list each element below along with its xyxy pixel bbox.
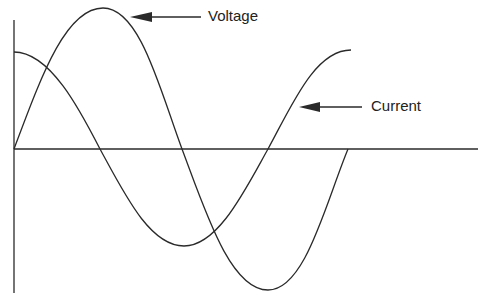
current-curve [14, 50, 351, 246]
current-arrow [299, 102, 362, 112]
current-label: Current [371, 97, 421, 114]
voltage-label: Voltage [208, 7, 258, 24]
voltage-arrow [130, 12, 201, 22]
waveform-diagram [0, 0, 485, 300]
